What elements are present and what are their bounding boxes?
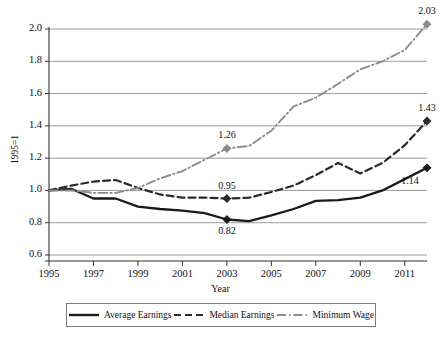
data-point-marker: [223, 145, 230, 152]
legend-swatch-dashed-icon: [173, 310, 205, 320]
x-axis-tick-label: 1997: [73, 268, 113, 279]
y-axis-tick-label: 0.8: [12, 216, 42, 227]
x-axis-tick-label: 2009: [340, 268, 380, 279]
x-axis-tick-label: 2007: [296, 268, 336, 279]
series-line: [49, 168, 427, 221]
x-axis-label: Year: [0, 283, 441, 294]
legend-item-minimum-wage[interactable]: Minimum Wage: [276, 310, 374, 320]
legend-label-median-earnings: Median Earnings: [209, 310, 274, 320]
x-axis-tick-label: 1995: [29, 268, 69, 279]
data-point-label: 1.14: [393, 175, 427, 186]
legend-label-average-earnings: Average Earnings: [104, 310, 172, 320]
y-axis-tick-label: 2.0: [12, 22, 42, 33]
x-axis-tick-label: 2005: [251, 268, 291, 279]
y-axis-tick-label: 1.2: [12, 151, 42, 162]
y-axis-tick-label: 1.8: [12, 54, 42, 65]
data-point-label: 1.26: [210, 129, 244, 140]
data-point-marker: [223, 216, 230, 223]
chart-legend: Average Earnings Median Earnings Minimum…: [66, 303, 376, 327]
data-point-label: 1.43: [410, 102, 441, 113]
chart-container: 1995=1 Year Average Earnings Median Earn…: [0, 0, 441, 339]
legend-swatch-solid-icon: [68, 310, 100, 320]
x-axis-tick-label: 2011: [385, 268, 425, 279]
x-axis-tick-label: 2001: [162, 268, 202, 279]
y-axis-tick-label: 0.6: [12, 248, 42, 259]
data-point-label: 2.03: [410, 5, 441, 16]
data-point-marker: [223, 195, 230, 202]
legend-item-median-earnings[interactable]: Median Earnings: [173, 310, 274, 320]
legend-swatch-dashdot-icon: [276, 310, 308, 320]
x-axis-tick-label: 2003: [207, 268, 247, 279]
data-point-label: 0.95: [210, 180, 244, 191]
y-axis-tick-label: 1.6: [12, 87, 42, 98]
y-axis-tick-label: 1.4: [12, 119, 42, 130]
data-point-label: 0.82: [210, 225, 244, 236]
y-axis-tick-label: 1.0: [12, 183, 42, 194]
legend-item-average-earnings[interactable]: Average Earnings: [68, 310, 172, 320]
x-axis-tick-label: 1999: [118, 268, 158, 279]
legend-label-minimum-wage: Minimum Wage: [312, 310, 374, 320]
